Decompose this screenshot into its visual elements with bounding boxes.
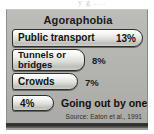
chart-panel: Agoraphobia Public transport 13% Tunnels… xyxy=(6,9,148,128)
bar-row: Crowds 7% xyxy=(12,73,147,90)
chart-source: Source: Eaton et al., 1991 xyxy=(66,113,142,120)
bar-public-transport: Public transport 13% xyxy=(12,29,143,47)
bar-row: Public transport 13% xyxy=(12,29,147,47)
bar-row: 4% Going out by oneself xyxy=(12,95,147,111)
bar-tunnels-or-bridges: Tunnels or bridges xyxy=(12,49,85,71)
bar-value: 4% xyxy=(13,98,40,109)
bar-row: Tunnels or bridges 8% xyxy=(12,49,147,71)
bar-crowds: Crowds xyxy=(12,73,78,90)
bar-label: Going out by oneself xyxy=(61,97,148,109)
bar-going-out-by-oneself: 4% xyxy=(12,95,54,111)
page-bleed-text: y g .... xyxy=(78,0,150,7)
bar-label: Crowds xyxy=(13,77,55,87)
bar-label: Tunnels or bridges xyxy=(13,50,66,70)
bar-value: 8% xyxy=(92,55,106,66)
chart-title: Agoraphobia xyxy=(7,14,148,26)
bar-value: 7% xyxy=(85,76,99,87)
figure-screenshot: y g .... Agoraphobia Public transport 13… xyxy=(0,0,154,134)
panel-bottom-shadow xyxy=(6,128,148,130)
bar-label: Public transport xyxy=(13,33,95,43)
bar-value: 13% xyxy=(116,33,142,44)
